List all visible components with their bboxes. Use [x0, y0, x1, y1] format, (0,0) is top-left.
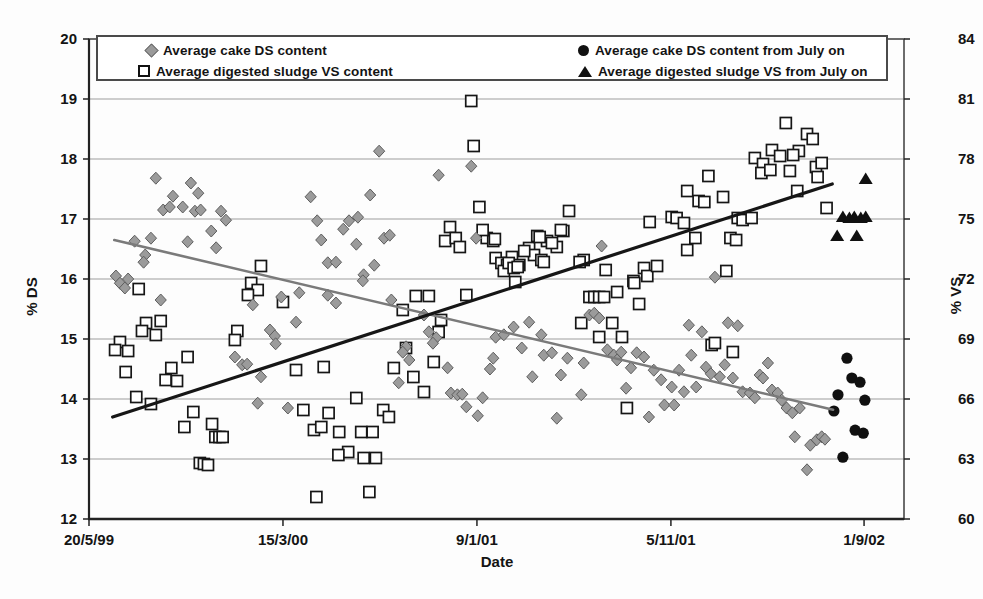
square-point: [155, 316, 166, 327]
square-point: [291, 365, 302, 376]
diamond-point: [442, 362, 453, 374]
diamond-point: [270, 338, 281, 350]
square-point: [594, 332, 605, 343]
square-point: [652, 261, 663, 272]
square-point: [718, 192, 729, 203]
diamond-point: [305, 191, 316, 203]
square-point: [311, 492, 322, 503]
square-point: [423, 291, 434, 302]
diamond-point: [461, 401, 472, 413]
square-point: [468, 141, 479, 152]
square-point: [133, 284, 144, 295]
square-point: [788, 150, 799, 161]
square-point: [807, 134, 818, 145]
square-point: [461, 290, 472, 301]
open-square-marker-icon: [138, 65, 150, 77]
left-tick-label: 19: [60, 90, 77, 107]
diamond-point: [527, 371, 538, 383]
left-axis-title: % DS: [23, 267, 40, 327]
left-tick-label: 17: [60, 210, 77, 227]
diamond-point: [351, 238, 362, 250]
square-point: [408, 372, 419, 383]
diamond-point: [656, 374, 667, 386]
square-point: [150, 330, 161, 341]
square-point: [120, 367, 131, 378]
left-tick-label: 14: [60, 390, 77, 407]
diamond-point: [466, 160, 477, 172]
square-point: [617, 332, 628, 343]
legend-item-cake-ds-july: Average cake DS content from July on: [578, 40, 845, 60]
legend-item-cake-ds: Average cake DS content: [146, 40, 327, 60]
diamond-point: [562, 352, 573, 364]
diamond-point: [145, 232, 156, 244]
points-group: [110, 96, 873, 503]
square-point: [765, 165, 776, 176]
square-point: [440, 236, 451, 247]
square-point: [644, 217, 655, 228]
square-point: [202, 460, 213, 471]
square-point: [682, 245, 693, 256]
square-point: [367, 427, 378, 438]
diamond-point: [643, 411, 654, 423]
diamond-point: [365, 189, 376, 201]
x-tick-label: 9/1/01: [456, 531, 498, 548]
diamond-point: [330, 256, 341, 268]
diamond-point: [596, 240, 607, 252]
circle-point: [828, 405, 839, 416]
diamond-point: [686, 349, 697, 361]
square-point: [703, 171, 714, 182]
left-tick-label: 16: [60, 270, 77, 287]
left-tick-label: 15: [60, 330, 77, 347]
plot-svg: 20191817161514131284817875726966636020/5…: [0, 0, 983, 599]
square-point: [418, 387, 429, 398]
circle-point: [837, 452, 848, 463]
diamond-point: [477, 392, 488, 404]
square-point: [445, 222, 456, 233]
diamond-point: [206, 225, 217, 237]
square-point: [298, 405, 309, 416]
right-tick-label: 69: [958, 330, 975, 347]
diamond-point: [524, 316, 535, 328]
square-point: [370, 453, 381, 464]
circle-point: [858, 428, 869, 439]
square-point: [383, 412, 394, 423]
series-triangle: [830, 173, 873, 242]
diamond-point: [691, 381, 702, 393]
square-point: [364, 487, 375, 498]
diamond-marker-icon: [144, 43, 158, 57]
left-tick-label: 12: [60, 510, 77, 527]
diamond-point: [678, 386, 689, 398]
square-point: [333, 450, 344, 461]
diamond-point: [433, 169, 444, 181]
x-tick-label: 20/5/99: [64, 531, 114, 548]
square-point: [564, 206, 575, 217]
right-axis-title: % VS: [947, 266, 964, 326]
square-point: [388, 363, 399, 374]
diamond-point: [666, 381, 677, 393]
x-tick-label: 5/11/01: [646, 531, 695, 548]
diamond-point: [801, 464, 812, 476]
square-point: [690, 233, 701, 244]
square-point: [699, 197, 710, 208]
right-tick-label: 63: [958, 450, 975, 467]
diamond-point: [488, 352, 499, 364]
diamond-point: [185, 177, 196, 189]
diamond-point: [211, 242, 222, 254]
square-point: [780, 118, 791, 129]
square-point: [489, 234, 500, 245]
triangle-point: [830, 230, 844, 242]
legend-item-sludge-vs-july: Average digested sludge VS from July on: [578, 61, 868, 81]
square-point: [682, 186, 693, 197]
square-point: [188, 407, 199, 418]
x-tick-label: 15/3/00: [258, 531, 308, 548]
square-point: [821, 203, 832, 214]
diamond-point: [330, 297, 341, 309]
square-point: [454, 242, 465, 253]
square-point: [474, 202, 485, 213]
square-point: [612, 287, 623, 298]
square-point: [334, 427, 345, 438]
square-point: [534, 232, 545, 243]
square-point: [207, 419, 218, 430]
square-point: [318, 362, 329, 373]
square-point: [255, 261, 266, 272]
